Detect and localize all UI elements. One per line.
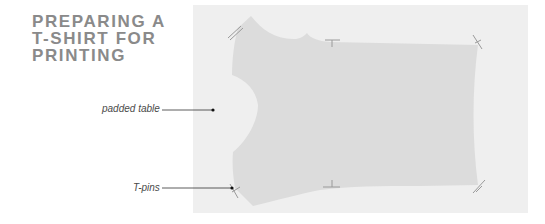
t-shirt-diagram [0,0,545,224]
t-shirt-shape [232,16,478,206]
label-padded-table: padded table [102,103,160,114]
label-t-pins: T-pins [133,182,160,193]
